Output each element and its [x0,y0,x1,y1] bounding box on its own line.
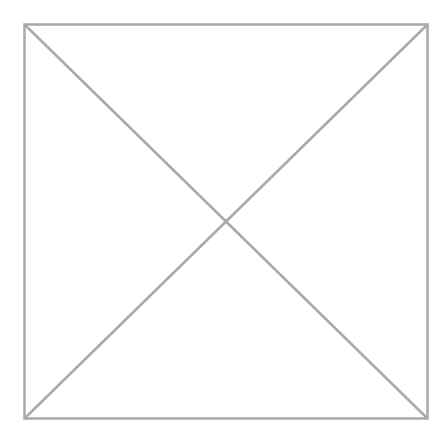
canvas [0,0,446,425]
crossed-box-icon [23,23,429,420]
image-placeholder [23,23,429,420]
